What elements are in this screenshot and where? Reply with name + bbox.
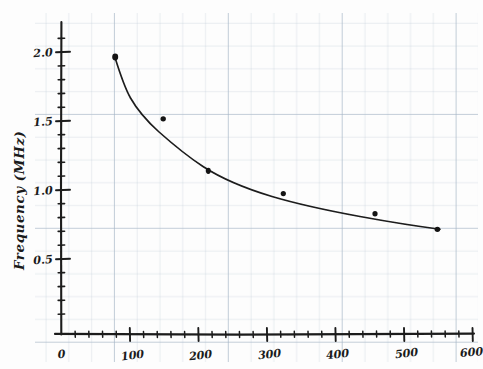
y-tick-label-1-0: 1.0 — [33, 183, 54, 198]
y-tick-label-1-5: 1.5 — [33, 114, 54, 129]
x-tick-label-500: 500 — [394, 345, 419, 361]
x-tick-label-400: 400 — [325, 346, 350, 362]
x-tick-label-600: 600 — [459, 344, 483, 360]
x-tick-label-0: 0 — [57, 347, 66, 362]
graph-paper-page: 2.0 1.5 1.0 0.5 0 100 200 300 400 500 60… — [0, 0, 483, 369]
data-point — [112, 54, 118, 61]
y-axis-title: Frequency (MHz) — [11, 130, 27, 271]
x-tick-label-200: 200 — [187, 347, 213, 363]
data-point — [281, 191, 286, 196]
x-tick-label-300: 300 — [257, 346, 282, 362]
data-point — [206, 168, 211, 174]
y-axis-title-group: Frequency (MHz) — [11, 130, 27, 271]
hand-drawn-chart: 2.0 1.5 1.0 0.5 0 100 200 300 400 500 60… — [0, 0, 483, 369]
x-axis-line — [55, 334, 474, 335]
data-point — [435, 227, 441, 232]
y-tick-label-2-0: 2.0 — [32, 45, 54, 60]
x-tick-label-100: 100 — [120, 347, 145, 364]
data-point — [161, 116, 166, 121]
y-ticks-minor — [58, 38, 64, 314]
y-tick-label-0-5: 0.5 — [33, 252, 54, 267]
data-point — [372, 211, 377, 216]
graph-paper-grid — [35, 13, 478, 362]
